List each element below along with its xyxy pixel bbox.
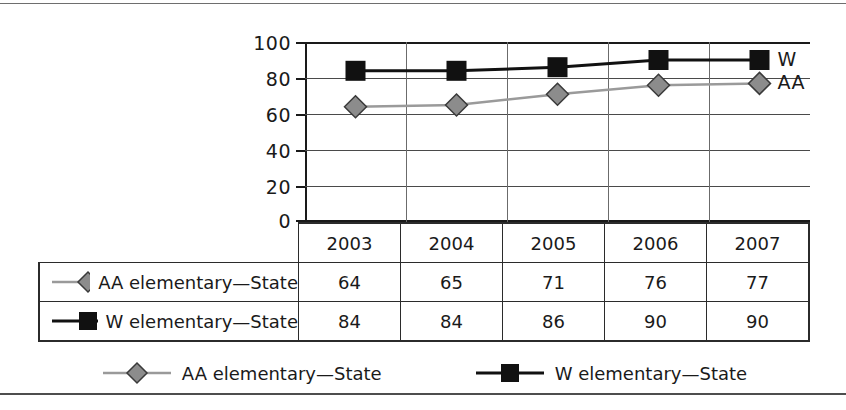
- data-point-aa-2005: [547, 83, 569, 105]
- page-rule-top: [0, 3, 846, 4]
- table-cell: 84: [401, 302, 503, 342]
- plot-area: 100806040200 W AA: [305, 42, 810, 222]
- table-cell: 76: [605, 263, 707, 302]
- table-year-header-2006: 2006: [605, 223, 707, 263]
- table-cell: 64: [299, 263, 401, 302]
- legend-key-w-icon: [474, 360, 546, 386]
- data-point-w-2005: [548, 57, 568, 77]
- table-year-header-2005: 2005: [503, 223, 605, 263]
- legend-item-label: W elementary—State: [555, 363, 747, 384]
- series-annotation-aa: AA: [778, 71, 806, 93]
- legend-item: AA elementary—State: [101, 360, 382, 386]
- table-year-header-2004: 2004: [401, 223, 503, 263]
- legend-item: W elementary—State: [474, 360, 747, 386]
- table-cell: 90: [707, 302, 810, 342]
- series-plot: [305, 42, 810, 222]
- table-cell: 84: [299, 302, 401, 342]
- table-cell: 71: [503, 263, 605, 302]
- data-point-aa-2007: [749, 72, 771, 94]
- y-tick-40: [296, 150, 305, 152]
- legend-key-aa-icon: [101, 360, 173, 386]
- y-axis-label-40: 40: [266, 140, 291, 162]
- y-axis-label-80: 80: [266, 68, 291, 90]
- table-row: AA elementary—State6465717677: [39, 263, 809, 302]
- page-rule-bottom: [0, 393, 846, 395]
- data-point-aa-2004: [446, 94, 468, 116]
- data-point-w-2006: [649, 50, 669, 70]
- legend-key-aa-icon: [50, 269, 90, 295]
- table-cell: 65: [401, 263, 503, 302]
- table-row-header: AA elementary—State: [39, 263, 299, 302]
- y-axis-label-60: 60: [266, 104, 291, 126]
- table-row: W elementary—State8484869090: [39, 302, 809, 342]
- series-annotation-w: W: [778, 48, 797, 70]
- table-cell: 86: [503, 302, 605, 342]
- table-row-label: AA elementary—State: [98, 272, 298, 293]
- table-cell: 90: [605, 302, 707, 342]
- chart-figure: 100806040200 W AA 20032004200520062007AA…: [0, 8, 846, 388]
- y-tick-100: [296, 42, 305, 44]
- y-axis-label-20: 20: [266, 176, 291, 198]
- y-axis-label-100: 100: [253, 32, 291, 54]
- table-header-row: 20032004200520062007: [39, 223, 809, 263]
- data-point-w-2007: [750, 50, 770, 70]
- data-table: 20032004200520062007AA elementary—State6…: [38, 222, 810, 342]
- table-row-label: W elementary—State: [106, 311, 298, 332]
- chart-legend: AA elementary—StateW elementary—State: [38, 360, 810, 386]
- table-year-header-2003: 2003: [299, 223, 401, 263]
- data-point-aa-2003: [345, 96, 367, 118]
- table-corner-cell: [39, 223, 299, 263]
- y-tick-80: [296, 78, 305, 80]
- data-point-w-2004: [447, 61, 467, 81]
- y-tick-60: [296, 114, 305, 116]
- table-row-header: W elementary—State: [39, 302, 299, 342]
- data-point-aa-2006: [648, 74, 670, 96]
- legend-key-w-icon: [50, 308, 98, 334]
- table-year-header-2007: 2007: [707, 223, 810, 263]
- y-tick-20: [296, 186, 305, 188]
- legend-item-label: AA elementary—State: [182, 363, 382, 384]
- data-point-w-2003: [346, 61, 366, 81]
- table-cell: 77: [707, 263, 810, 302]
